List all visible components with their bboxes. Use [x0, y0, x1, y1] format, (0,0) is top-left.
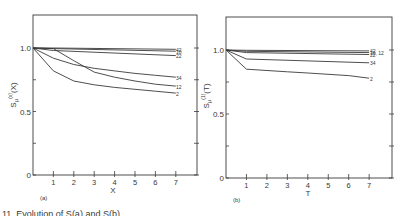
x-tick-label: 6	[153, 178, 157, 187]
figure: 123456700.51.042102234122XSμ(x)(X)(a)123…	[0, 0, 403, 216]
y-tick-label: 0.5	[20, 108, 32, 117]
x-axis-label: X	[110, 186, 116, 195]
x-tick-label: 1	[244, 181, 248, 190]
x-tick-label: 3	[285, 181, 289, 190]
panel-label: (a)	[40, 195, 47, 201]
series-label: 12	[176, 84, 182, 90]
y-tick-label: 1.0	[213, 46, 225, 55]
y-tick-label: 0	[27, 171, 32, 180]
x-tick-label: 3	[92, 178, 96, 187]
y-tick-label: 0	[220, 174, 225, 183]
series-label: 22	[176, 53, 182, 59]
x-tick-label: 2	[265, 181, 269, 190]
x-tick-label: 5	[326, 181, 330, 190]
panel-label: (b)	[233, 197, 240, 203]
y-tick-label: 0.5	[213, 110, 225, 119]
x-tick-label: 5	[133, 178, 137, 187]
y-axis-label: Sμ(x)(X)	[7, 82, 19, 108]
chart-panel-b: 123456700.51.04210, 1222342TSμ(1)(T)(b)	[200, 17, 394, 203]
x-tick-label: 7	[367, 181, 371, 190]
series-label: 34	[370, 60, 376, 66]
x-tick-label: 1	[51, 178, 55, 187]
series-label: 34	[176, 75, 182, 81]
series-line-42	[226, 50, 369, 51]
series-line-12	[33, 48, 176, 86]
series-label: 2	[370, 76, 373, 82]
chart-panel-a: 123456700.51.042102234122XSμ(x)(X)(a)	[7, 15, 199, 201]
y-axis-label: Sμ(1)(T)	[200, 83, 212, 108]
x-tick-label: 6	[347, 181, 351, 190]
x-axis-label: T	[306, 189, 311, 198]
series-label: 22	[370, 52, 376, 58]
plot-frame	[33, 15, 197, 175]
y-tick-label: 1.0	[20, 44, 32, 53]
plot-frame	[226, 17, 392, 178]
x-tick-label: 7	[174, 178, 178, 187]
series-label: 2	[176, 91, 179, 97]
x-tick-label: 2	[72, 178, 76, 187]
figure-caption: 11. Evolution of S(a) and S(b) ...	[2, 209, 130, 216]
